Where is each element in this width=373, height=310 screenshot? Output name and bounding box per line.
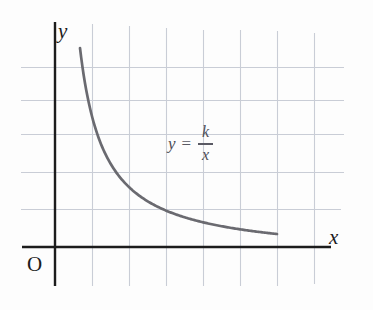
equation-lhs: y	[168, 135, 176, 152]
x-axis-label: x	[329, 227, 338, 248]
equation-equals-sign: =	[182, 135, 192, 152]
equation-denominator: x	[199, 147, 212, 164]
inverse-proportion-figure: y x O y = k x	[0, 0, 373, 310]
equation-annotation: y = k x	[168, 124, 213, 164]
origin-label: O	[27, 254, 42, 275]
fraction-bar-icon	[198, 143, 213, 144]
equation-numerator: k	[199, 124, 212, 141]
y-axis-label: y	[58, 21, 67, 42]
equation-fraction: k x	[198, 124, 213, 164]
